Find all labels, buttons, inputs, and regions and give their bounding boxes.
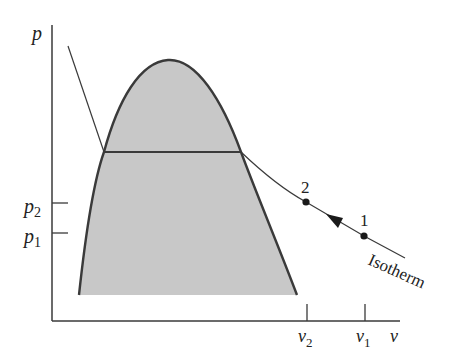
point-2-label: 2 bbox=[301, 178, 310, 197]
process-arrow-icon bbox=[326, 214, 343, 228]
x-axis-label: v bbox=[390, 326, 398, 346]
v2-label: v2 bbox=[298, 326, 313, 350]
point-1-label: 1 bbox=[360, 211, 369, 230]
y-axis-label: p bbox=[30, 22, 42, 45]
state-point-1 bbox=[360, 232, 367, 239]
p2-label: p2 bbox=[22, 195, 41, 220]
pv-diagram: p v p2 p1 v2 v1 2 1 Isotherm bbox=[0, 0, 464, 360]
v1-label: v1 bbox=[356, 326, 371, 350]
isotherm-label: Isotherm bbox=[365, 250, 428, 292]
p1-label: p1 bbox=[22, 225, 41, 250]
saturation-dome bbox=[79, 60, 297, 295]
state-point-2 bbox=[302, 198, 309, 205]
isotherm-liquid-branch bbox=[68, 46, 104, 152]
